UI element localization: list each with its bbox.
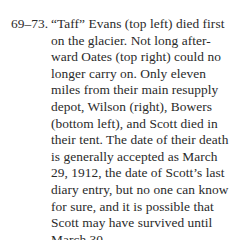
caption-line: is generally accepted as March <box>51 149 237 166</box>
caption-line: “Taff” Evans (top left) died first <box>51 16 237 33</box>
caption-line: on the glacier. Not long after- <box>51 33 237 50</box>
caption-line: their tent. The date of their death <box>51 132 237 149</box>
caption-line: (bottom left), and Scott died in <box>51 116 237 133</box>
caption-line: for sure, and it is possible that <box>51 199 237 216</box>
caption-line: Scott may have survived until <box>51 215 237 232</box>
figure-number: 69–73. <box>11 16 48 33</box>
caption-line: miles from their main resupply <box>51 82 237 99</box>
photo-caption: 69–73. “Taff” Evans (top left) died firs… <box>11 16 237 232</box>
caption-line: diary entry, but no one can know <box>51 182 237 199</box>
caption-line: depot, Wilson (right), Bowers <box>51 99 237 116</box>
caption-text: “Taff” Evans (top left) died first on th… <box>51 16 237 232</box>
caption-line: longer carry on. Only eleven <box>51 66 237 83</box>
caption-line: 29, 1912, the date of Scott’s last <box>51 165 237 182</box>
caption-line: ward Oates (top right) could no <box>51 49 237 66</box>
